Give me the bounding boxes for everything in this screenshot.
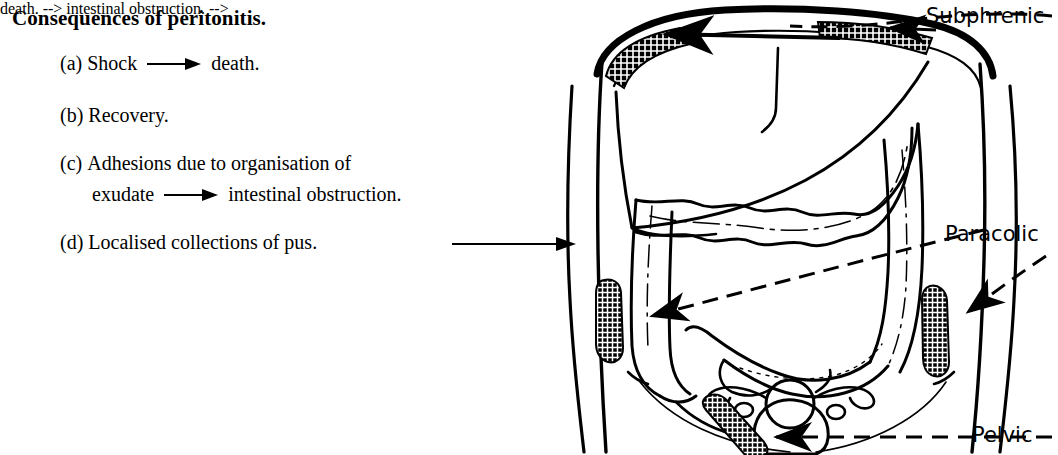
- caecum: [660, 396, 696, 402]
- list-item-marker: (d): [60, 231, 83, 254]
- list-item-marker: (c): [60, 152, 82, 175]
- descending-colon: [870, 124, 923, 372]
- label-pelvic: Pelvic: [972, 423, 1032, 447]
- list-item-text: exudate: [92, 183, 154, 206]
- transverse-colon: [636, 124, 918, 246]
- list-item-result: intestinal obstruction.: [228, 183, 401, 206]
- figure-page: Consequences of peritonitis. death. --> …: [0, 0, 1058, 455]
- sigmoid-colon: [686, 327, 888, 397]
- leads-to-arrow-icon: [164, 189, 218, 201]
- page-title: Consequences of peritonitis.: [12, 6, 266, 31]
- list-item-marker: (b): [60, 104, 83, 127]
- list-item: (b) Recovery.: [60, 104, 169, 127]
- list-item-text: Adhesions due to organisation of: [87, 152, 351, 175]
- list-item-text: Localised collections of pus.: [88, 231, 317, 254]
- pelvic-collection: [703, 394, 768, 455]
- list-item-text: Shock: [87, 52, 137, 75]
- list-item: (a) Shock death.: [60, 52, 260, 75]
- consequences-text-panel: Consequences of peritonitis. death. --> …: [0, 0, 580, 455]
- paracolic-collection-left: [596, 280, 623, 363]
- list-item: (c) Adhesions due to organisation of: [60, 152, 351, 175]
- paracolic-leader-right: [968, 256, 1046, 312]
- pelvic-brim: [628, 372, 954, 452]
- list-item-text: Recovery.: [88, 104, 168, 127]
- list-item-continuation: exudate intestinal obstruction.: [92, 183, 402, 206]
- leads-to-arrow-icon: [147, 58, 201, 70]
- ovary-right: [827, 405, 845, 419]
- list-item: (d) Localised collections of pus.: [60, 231, 317, 254]
- paracolic-collection-right: [922, 286, 949, 377]
- subphrenic-leader-right-arrow: [890, 28, 936, 30]
- label-subphrenic: Subphrenic: [926, 4, 1044, 28]
- label-paracolic: Paracolic: [945, 222, 1039, 246]
- list-item-marker: (a): [60, 52, 82, 75]
- list-item-result: death.: [211, 52, 259, 75]
